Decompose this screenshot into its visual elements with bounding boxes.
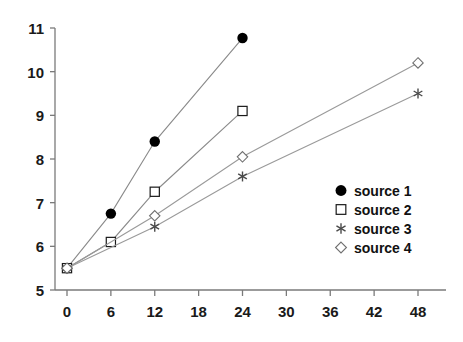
legend-marker-glyph (336, 223, 345, 234)
open-diamond-icon (332, 238, 352, 257)
x-axis-label-48: 48 (410, 303, 427, 320)
legend-item-3[interactable]: source 3 (332, 219, 454, 238)
y-axis-label-7: 7 (10, 194, 44, 211)
x-axis-label-6: 6 (107, 303, 115, 320)
plot-area (0, 0, 463, 342)
chart-legend: source 1source 2source 3source 4 (332, 181, 454, 257)
legend-item-2[interactable]: source 2 (332, 200, 454, 219)
marker-open-diamond (336, 242, 347, 253)
legend-label-2: source 2 (352, 202, 412, 218)
legend-label-4: source 4 (352, 240, 412, 256)
marker-asterisk (414, 89, 423, 99)
y-axis-label-11: 11 (10, 20, 44, 37)
x-axis-label-12: 12 (146, 303, 163, 320)
y-axis-label-5: 5 (10, 282, 44, 299)
legend-marker-glyph (336, 205, 346, 215)
marker-open-diamond (413, 58, 423, 68)
chart-figure: 5678910110612182430364248 source 1source… (0, 0, 463, 342)
marker-open-diamond (150, 211, 160, 221)
marker-asterisk (238, 171, 247, 181)
x-axis-label-24: 24 (234, 303, 251, 320)
marker-open-square (336, 205, 346, 215)
open-square-icon (332, 200, 352, 219)
x-axis-label-30: 30 (278, 303, 295, 320)
x-axis-label-42: 42 (366, 303, 383, 320)
x-axis-label-0: 0 (63, 303, 71, 320)
series-1 (62, 33, 248, 274)
legend-item-1[interactable]: source 1 (332, 181, 454, 200)
legend-label-1: source 1 (352, 183, 412, 199)
legend-item-4[interactable]: source 4 (332, 238, 454, 257)
marker-asterisk (336, 223, 345, 234)
marker-filled-circle (237, 33, 247, 43)
y-axis-label-8: 8 (10, 151, 44, 168)
marker-asterisk (150, 222, 159, 232)
y-axis-label-10: 10 (10, 63, 44, 80)
asterisk-icon (332, 219, 352, 238)
series-line (67, 38, 243, 268)
x-axis-label-18: 18 (190, 303, 207, 320)
filled-circle-icon (332, 181, 352, 200)
legend-label-3: source 3 (352, 221, 412, 237)
x-axis-label-36: 36 (322, 303, 339, 320)
marker-open-diamond (237, 152, 247, 162)
marker-open-square (150, 187, 159, 196)
marker-open-square (238, 106, 247, 115)
marker-filled-circle (106, 208, 116, 218)
marker-filled-circle (150, 136, 160, 146)
marker-filled-circle (336, 185, 347, 196)
legend-marker-glyph (336, 242, 347, 253)
y-axis-label-9: 9 (10, 107, 44, 124)
legend-marker-glyph (336, 185, 347, 196)
y-axis-label-6: 6 (10, 238, 44, 255)
